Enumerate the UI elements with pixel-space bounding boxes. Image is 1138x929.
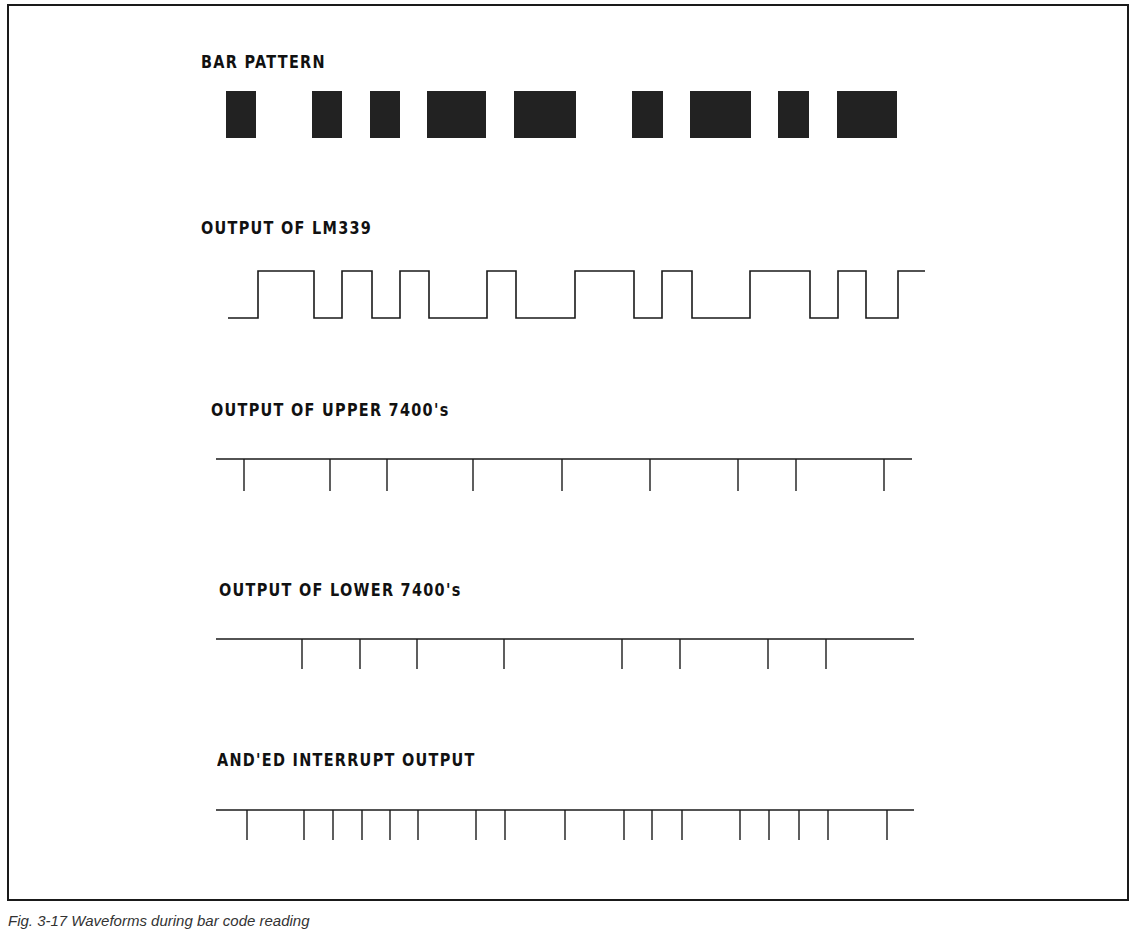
bar-9 [837,91,897,138]
bar-5 [514,91,576,138]
bar-7 [690,91,751,138]
bar-2 [312,91,342,138]
lower-7400-pulse-train [216,639,914,669]
bar-3 [370,91,400,138]
bar-6 [632,91,663,138]
bar-4 [427,91,486,138]
bar-pattern [226,91,897,138]
bar-1 [226,91,256,138]
bar-8 [778,91,809,138]
lm339-waveform [228,271,925,318]
figure-caption: Fig. 3-17 Waveforms during bar code read… [8,912,310,929]
upper-7400-pulse-train [216,459,912,491]
anded-interrupt-pulse-train [216,810,914,840]
